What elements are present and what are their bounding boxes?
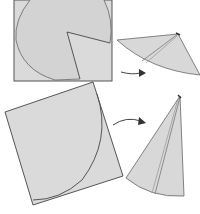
square-sheet-2 bbox=[5, 82, 123, 205]
shallow-cone bbox=[117, 33, 200, 75]
tall-cone bbox=[126, 95, 184, 196]
arrow-2 bbox=[113, 117, 146, 125]
arrow-1 bbox=[121, 69, 146, 77]
cone-diagram bbox=[0, 0, 200, 214]
square-sheet-1 bbox=[14, 0, 112, 81]
